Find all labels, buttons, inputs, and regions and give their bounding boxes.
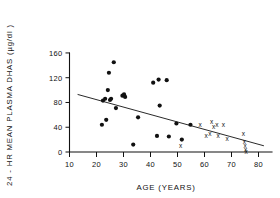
x-tick-label: 70 xyxy=(227,160,236,169)
data-point-dot xyxy=(136,115,140,119)
y-tick-label: 0 xyxy=(58,148,62,157)
scatter-plot-figure: 04080120160 1020304050607080 24 - HR MEA… xyxy=(0,0,280,198)
x-axis-tick-labels: 1020304050607080 xyxy=(65,160,263,169)
plot-canvas: 04080120160 1020304050607080 24 - HR MEA… xyxy=(0,0,280,198)
data-point-cross: x xyxy=(222,121,226,128)
data-point-dot xyxy=(167,134,171,138)
x-axis-ticks xyxy=(70,152,259,157)
data-point-dot xyxy=(104,118,108,122)
data-point-dot xyxy=(100,123,104,127)
y-axis-title: 24 - HR MEAN PLASMA DHAS (µg/dl ) xyxy=(5,24,14,186)
x-tick-label: 10 xyxy=(65,160,74,169)
y-tick-label: 40 xyxy=(54,123,63,132)
data-point-cross: x xyxy=(199,121,203,128)
data-point-cross: x xyxy=(242,130,246,137)
data-point-dot xyxy=(151,81,155,85)
data-point-cross: x xyxy=(208,130,212,137)
data-point-cross: x xyxy=(179,142,183,149)
y-tick-label: 160 xyxy=(49,49,62,58)
x-tick-label: 60 xyxy=(200,160,209,169)
y-axis-ticks xyxy=(66,53,70,152)
data-point-dot xyxy=(109,97,113,101)
x-tick-label: 20 xyxy=(92,160,101,169)
axes xyxy=(66,53,273,157)
data-point-dot xyxy=(112,60,116,64)
x-tick-label: 40 xyxy=(146,160,155,169)
data-point-dot xyxy=(123,95,127,99)
data-point-dot xyxy=(158,103,162,107)
y-tick-label: 120 xyxy=(49,74,62,83)
data-point-cross: x xyxy=(215,121,219,128)
data-point-dot xyxy=(180,138,184,142)
data-point-dot xyxy=(174,121,178,125)
data-point-dot xyxy=(106,88,110,92)
data-point-dot xyxy=(155,134,159,138)
y-tick-label: 80 xyxy=(54,98,63,107)
data-point-dot xyxy=(107,71,111,75)
data-point-dot xyxy=(114,106,118,110)
data-point-dot xyxy=(157,77,161,81)
x-tick-label: 50 xyxy=(173,160,182,169)
data-point-dot xyxy=(131,142,135,146)
data-point-cross: x xyxy=(244,148,248,155)
x-axis-title: AGE (YEARS) xyxy=(136,183,195,192)
x-tick-label: 80 xyxy=(254,160,263,169)
filled-circle-data-points xyxy=(100,60,193,147)
data-point-dot xyxy=(188,123,192,127)
x-tick-label: 30 xyxy=(119,160,128,169)
data-point-dot xyxy=(103,97,107,101)
data-point-dot xyxy=(165,78,169,82)
y-axis-tick-labels: 04080120160 xyxy=(49,49,62,157)
